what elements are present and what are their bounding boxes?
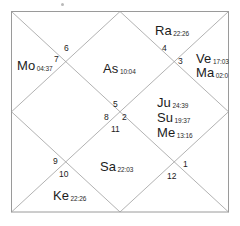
planet-ascendant: As10:04 (103, 60, 136, 76)
planet-degree: 02:0 (216, 72, 228, 79)
planet-degree: 10:04 (120, 68, 136, 75)
planet-degree: 04:37 (37, 65, 53, 72)
planet-abbr: Me (157, 125, 175, 140)
planet-degree: 22:03 (118, 166, 134, 173)
planet-mars: Ma02:0 (196, 64, 228, 80)
planet-degree: 13:16 (177, 132, 193, 139)
planet-ketu: Ke22:26 (53, 187, 86, 203)
planet-abbr: Mo (17, 58, 35, 73)
planet-sun: Su19:37 (157, 109, 190, 125)
planet-abbr: Ju (157, 95, 171, 110)
planet-layer: Ra22:26 Ve17:03 Ma02:0 Mo04:37 As10:04 J… (0, 0, 240, 226)
planet-abbr: Ra (155, 23, 172, 38)
planet-abbr: As (103, 61, 118, 76)
planet-degree: 22:26 (173, 30, 189, 37)
planet-rahu: Ra22:26 (155, 22, 189, 38)
planet-degree: 19:37 (175, 117, 191, 124)
planet-abbr: Sa (100, 159, 116, 174)
planet-abbr: Su (157, 110, 173, 125)
planet-jupiter: Ju24:39 (157, 94, 188, 110)
planet-degree: 22:26 (71, 195, 87, 202)
planet-moon: Mo04:37 (17, 57, 53, 73)
planet-mercury: Me13:16 (157, 124, 193, 140)
planet-saturn: Sa22:03 (100, 158, 133, 174)
planet-degree: 24:39 (172, 102, 188, 109)
planet-abbr: Ma (196, 65, 214, 80)
kundali-chart: 1 2 3 4 5 6 7 8 9 10 11 12 Ra22:26 Ve17:… (0, 0, 240, 226)
planet-abbr: Ke (53, 188, 69, 203)
